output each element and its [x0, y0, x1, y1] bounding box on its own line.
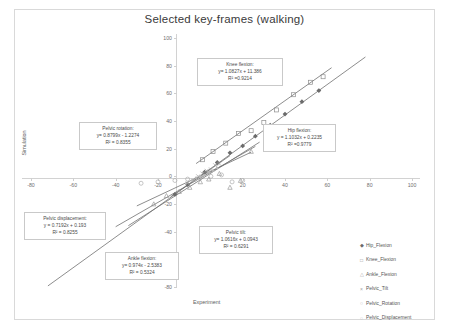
- data-point: [321, 75, 325, 79]
- data-point: [249, 129, 253, 133]
- legend-item-ankle-flexion[interactable]: △Ankle_Flexion: [357, 267, 437, 282]
- legend-marker-icon: □: [357, 257, 366, 263]
- data-point: [199, 175, 202, 178]
- legend-marker-icon: ○: [357, 300, 366, 306]
- legend-item-pelvic-tilt[interactable]: ×Pelvic_Tilt: [357, 282, 437, 297]
- annotation-pelvic-tilt: Pelvic tilt: y= 1.0616x + 0.0943 R² = 0.…: [199, 226, 273, 254]
- legend-item-pelvic-rotation[interactable]: ○Pelvic_Rotation: [357, 296, 437, 311]
- annotation-equation: y= 1.0827x + 11.386: [201, 68, 279, 75]
- annotation-label: Ankle flexion:: [109, 255, 175, 262]
- data-point: [275, 108, 279, 112]
- annotation-r2: R² =0.9779: [267, 141, 332, 148]
- trendline-pelvic-displacement: [137, 152, 251, 206]
- trendline-ankle-flexion: [128, 142, 259, 226]
- chart-legend: ◆Hip_Flexion□Knee_Flexion△Ankle_Flexion×…: [357, 238, 437, 325]
- data-point: [195, 176, 198, 179]
- data-point: [186, 177, 190, 181]
- data-point: [203, 174, 206, 177]
- data-point: [216, 167, 219, 170]
- annotation-equation: y= 0.8799x - 1.2274: [83, 132, 153, 139]
- annotation-r2: R² =0.9214: [201, 75, 279, 82]
- annotation-r2: R² = 0.8355: [83, 139, 153, 146]
- annotation-ankle-flexion: Ankle flexion: y= 0.974x - 2.5383 R² = 0…: [105, 252, 179, 280]
- legend-marker-icon: ×: [357, 286, 366, 292]
- legend-label: Knee_Flexion: [366, 257, 396, 262]
- annotation-pelvic-rotation: Pelvic rotation: y= 0.8799x - 1.2274 R² …: [79, 122, 157, 150]
- trendline-pelvic-rotation: [116, 146, 256, 226]
- data-point: [209, 174, 213, 178]
- annotation-r2: R² = 0.8255: [28, 229, 102, 236]
- series-pelvic-rotation: [139, 173, 245, 185]
- legend-marker-icon: △: [357, 271, 366, 277]
- legend-label: Pelvic_Displacement: [366, 315, 411, 320]
- annotation-label: Hip flexion:: [267, 127, 332, 134]
- data-point: [228, 150, 233, 155]
- data-point: [173, 178, 177, 182]
- annotation-pelvic-displacement: Pelvic displacement: y = 0.7192x + 0.193…: [24, 212, 106, 240]
- legend-label: Pelvic_Rotation: [366, 301, 400, 306]
- legend-label: Hip_Flexion: [366, 243, 392, 248]
- data-point: [198, 180, 202, 184]
- legend-marker-icon: ◆: [357, 242, 366, 248]
- data-point: [191, 179, 194, 182]
- legend-item-hip-flexion[interactable]: ◆Hip_Flexion: [357, 238, 437, 253]
- legend-label: Pelvic_Tilt: [366, 286, 388, 291]
- data-point: [208, 171, 211, 174]
- chart-page: Selected key-frames (walking) 1008060402…: [0, 0, 449, 329]
- legend-item-knee-flexion[interactable]: □Knee_Flexion: [357, 253, 437, 268]
- legend-label: Ankle_Flexion: [366, 272, 397, 277]
- annotation-equation: y= 1.0616x + 0.0943: [203, 236, 269, 243]
- annotation-label: Pelvic rotation:: [83, 125, 153, 132]
- annotation-label: Pelvic displacement:: [28, 215, 102, 222]
- annotation-equation: y = 0.7192x + 0.193: [28, 222, 102, 229]
- data-point: [139, 181, 143, 185]
- annotation-label: Knee flexion:: [201, 61, 279, 68]
- data-point: [230, 180, 234, 184]
- annotation-hip-flexion: Hip flexion: y = 1.1032x + 0.2235 R² =0.…: [263, 124, 336, 152]
- annotation-r2: R² = 0.5324: [109, 269, 175, 276]
- data-point: [156, 180, 160, 184]
- annotation-r2: R² = 0.6291: [203, 243, 269, 250]
- legend-marker-icon: ○: [357, 315, 366, 321]
- data-point: [228, 185, 232, 189]
- data-point: [207, 177, 211, 181]
- annotation-knee-flexion: Knee flexion: y= 1.0827x + 11.386 R² =0.…: [197, 58, 283, 86]
- data-point: [164, 194, 168, 198]
- annotation-equation: y = 1.1032x + 0.2235: [267, 134, 332, 141]
- legend-item-pelvic-displacement[interactable]: ○Pelvic_Displacement: [357, 311, 437, 326]
- annotation-label: Pelvic tilt:: [203, 229, 269, 236]
- data-point: [212, 170, 215, 173]
- data-point: [300, 99, 305, 104]
- annotation-equation: y= 0.974x - 2.5383: [109, 262, 175, 269]
